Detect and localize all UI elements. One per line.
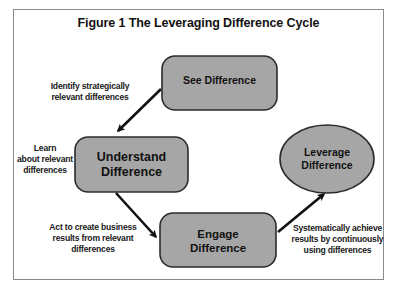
edge-label-act-line1: Act to create business <box>38 222 148 233</box>
edge-label-systematically-line2: results by continuously <box>290 234 385 245</box>
node-understand-label-line1: Understand <box>97 150 166 164</box>
annotation-learn: Learn about relevant differences <box>14 143 76 176</box>
edge-label-systematically-line3: using differences <box>290 245 385 256</box>
node-leverage-label-line1: Leverage <box>304 146 350 158</box>
edge-label-act-line3: differences <box>38 244 148 255</box>
node-engage-label-line1: Engage <box>197 228 239 240</box>
edge-label-identify: Identify strategically relevant differen… <box>40 81 140 103</box>
node-understand-label-line2: Difference <box>101 165 162 179</box>
node-see-difference: See Difference <box>162 56 277 110</box>
node-leverage-difference: Leverage Difference <box>280 125 374 193</box>
annotation-learn-line3: differences <box>14 165 76 176</box>
edge-label-identify-line2: relevant differences <box>40 92 140 103</box>
edge-label-act-line2: results from relevant <box>38 233 148 244</box>
annotation-learn-line1: Learn <box>14 143 76 154</box>
edge-label-act: Act to create business results from rele… <box>38 222 148 255</box>
node-see-label: See Difference <box>183 74 256 86</box>
edge-label-systematically-line1: Systematically achieve <box>290 223 385 234</box>
node-understand-difference: Understand Difference <box>75 137 188 192</box>
annotation-learn-line2: about relevant <box>14 154 76 165</box>
node-leverage-label-line2: Difference <box>301 159 353 171</box>
edge-label-identify-line1: Identify strategically <box>40 81 140 92</box>
node-engage-difference: Engage Difference <box>160 213 276 267</box>
edge-label-systematically: Systematically achieve results by contin… <box>290 223 385 256</box>
node-engage-label-line2: Difference <box>190 242 246 254</box>
